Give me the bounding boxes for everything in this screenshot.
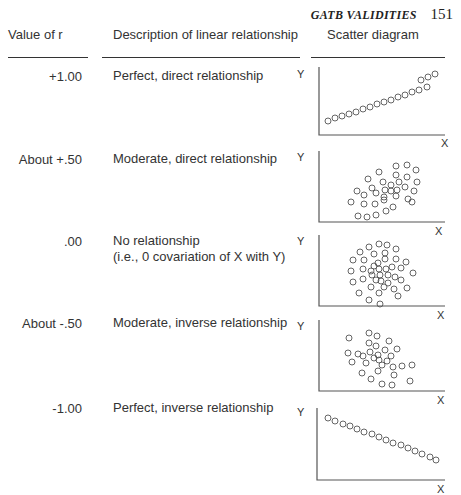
header-rule-value <box>8 57 88 58</box>
scatter-plot-moderate-inverse: Y X <box>295 314 461 404</box>
relationship-description: Perfect, inverse relationship <box>113 400 273 416</box>
relationship-description: Moderate, direct relationship <box>113 151 277 167</box>
scatter-plot-moderate-direct: Y X <box>295 145 461 235</box>
scatter-plot-perfect-inverse: Y X <box>295 400 461 495</box>
svg-text:Y: Y <box>297 68 305 80</box>
r-value: +1.00 <box>0 69 82 84</box>
header-rule-description <box>102 57 300 58</box>
description-line-1: No relationship <box>113 233 285 249</box>
scatter-plot-perfect-direct: Y X <box>295 62 461 147</box>
header-value-of-r: Value of r <box>8 27 63 42</box>
r-value: .00 <box>0 234 82 249</box>
header-rule-scatter <box>311 57 445 58</box>
svg-text:Y: Y <box>297 406 305 418</box>
relationship-description: No relationship (i.e., 0 covariation of … <box>113 233 285 265</box>
page-number: 151 <box>431 6 454 22</box>
running-head: GATB VALIDITIES 151 <box>311 6 453 23</box>
relationship-description: Moderate, inverse relationship <box>113 315 287 331</box>
svg-text:X: X <box>437 483 445 495</box>
svg-text:Y: Y <box>297 235 305 247</box>
svg-text:Y: Y <box>297 151 305 163</box>
r-value: About -.50 <box>0 316 82 331</box>
header-scatter-diagram: Scatter diagram <box>327 27 419 42</box>
r-value: -1.00 <box>0 401 82 416</box>
running-title: GATB VALIDITIES <box>311 8 417 22</box>
scatter-plot-no-relationship: Y X <box>295 229 461 321</box>
r-value: About +.50 <box>0 152 82 167</box>
header-description: Description of linear relationship <box>113 27 298 42</box>
relationship-description: Perfect, direct relationship <box>113 68 263 84</box>
description-line-2: (i.e., 0 covariation of X with Y) <box>113 249 285 265</box>
svg-text:Y: Y <box>297 320 305 332</box>
